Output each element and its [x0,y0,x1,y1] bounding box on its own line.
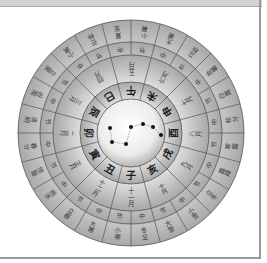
calendar-wheel: 午巳辰卯寅丑子亥戌酉申未五月四月三月二月正月十二月十一月十月九月八月七月六月中节… [0,0,267,263]
svg-text:月: 月 [59,130,67,137]
zhong-jie-label: 节 [116,212,124,221]
zhong-jie-label: 中 [138,211,146,221]
star-dot [110,140,114,144]
earthly-branch-label: 午 [126,85,136,97]
center-disc [97,99,165,167]
svg-text:分: 分 [230,115,240,123]
zhong-jie-label: 节 [210,140,219,148]
earthly-branch-label: 酉 [168,128,179,138]
month-label: 八月 [188,130,203,137]
svg-text:月: 月 [195,130,203,137]
svg-text:至: 至 [141,233,149,242]
month-label: 二月 [59,130,74,137]
zhong-jie-label: 节 [43,118,52,126]
svg-text:露: 露 [231,143,240,151]
star-dot [141,122,145,126]
svg-text:寒: 寒 [113,232,121,242]
star-dot [129,125,133,129]
star-dot [151,125,155,129]
svg-text:至: 至 [113,24,121,33]
star-dot [124,142,128,146]
earthly-branch-label: 子 [126,170,136,181]
svg-text:暑: 暑 [141,24,149,33]
svg-text:分: 分 [22,143,32,151]
svg-text:明: 明 [22,115,31,123]
zhong-jie-label: 节 [138,45,146,54]
zhong-jie-label: 中 [209,118,219,126]
star-dot [108,126,112,130]
zhong-jie-label: 中 [43,140,53,148]
rings-group [18,20,244,246]
earthly-branch-label: 卯 [83,128,95,138]
svg-text:月: 月 [128,61,135,69]
month-label: 十一月 [128,186,135,208]
svg-text:月: 月 [128,200,135,208]
star-dot [159,133,163,137]
month-label: 五月 [128,61,135,76]
zhong-jie-label: 中 [116,45,124,55]
